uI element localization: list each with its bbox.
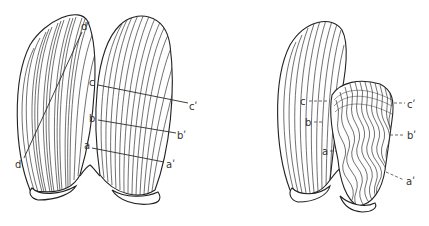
label-b: b xyxy=(89,113,95,124)
label-b-right: b xyxy=(305,117,311,128)
label-a-right: a xyxy=(322,146,328,157)
figure-canvas: dʹ d c cʹ b bʹ a aʹ xyxy=(0,0,429,226)
left-panel: dʹ d c cʹ b bʹ a aʹ xyxy=(15,14,197,204)
label-c-right: c xyxy=(300,96,306,107)
label-c: c xyxy=(89,77,95,88)
right-panel: c cʹ b bʹ a aʹ xyxy=(278,20,417,212)
left-feather-b xyxy=(96,14,174,204)
label-b-prime-right: bʹ xyxy=(407,130,416,141)
label-c-prime-right: cʹ xyxy=(407,99,415,110)
label-d-prime: dʹ xyxy=(81,21,90,32)
label-a: a xyxy=(84,140,90,151)
label-d: d xyxy=(15,159,21,170)
label-a-prime: aʹ xyxy=(166,159,175,170)
label-a-prime-right: aʹ xyxy=(406,176,415,187)
notch xyxy=(80,165,100,176)
label-b-prime: bʹ xyxy=(177,130,186,141)
label-c-prime: cʹ xyxy=(189,101,197,112)
right-feather-b-contracted xyxy=(331,81,394,212)
